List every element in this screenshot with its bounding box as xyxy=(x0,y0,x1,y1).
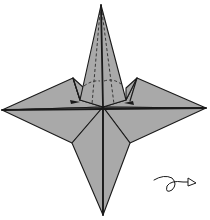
top-point xyxy=(80,5,126,107)
origami-diagram xyxy=(0,0,210,220)
turn-over-arrow-icon xyxy=(154,176,196,191)
